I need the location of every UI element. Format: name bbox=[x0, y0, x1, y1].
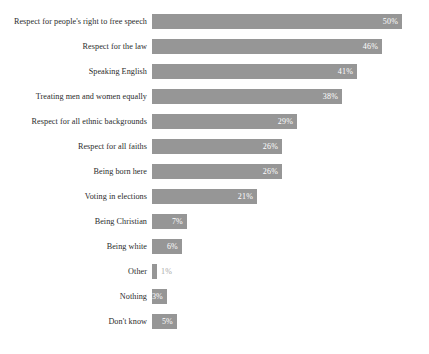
bar-category-label: Being white bbox=[0, 242, 152, 252]
bar-row: Respect for all ethnic backgrounds29% bbox=[0, 114, 429, 129]
horizontal-bar-chart: Respect for people's right to free speec… bbox=[0, 0, 429, 354]
bar-row: Being born here26% bbox=[0, 164, 429, 179]
bar-value-label: 5% bbox=[162, 314, 177, 329]
bar bbox=[152, 64, 357, 79]
bar-row: Being Christian7% bbox=[0, 214, 429, 229]
bar-row: Treating men and women equally38% bbox=[0, 89, 429, 104]
bar-category-label: Respect for people's right to free speec… bbox=[0, 17, 152, 27]
bar-row: Speaking English41% bbox=[0, 64, 429, 79]
bar-value-label: 21% bbox=[238, 189, 257, 204]
bar bbox=[152, 114, 297, 129]
bar-row: Nothing3% bbox=[0, 289, 429, 304]
bar-value-label: 1% bbox=[157, 264, 172, 279]
bar-category-label: Respect for the law bbox=[0, 42, 152, 52]
bar-row: Respect for people's right to free speec… bbox=[0, 14, 429, 29]
bar-track: 38% bbox=[152, 89, 429, 104]
bar-category-label: Speaking English bbox=[0, 67, 152, 77]
bar bbox=[152, 14, 402, 29]
bar-track: 26% bbox=[152, 139, 429, 154]
bar-track: 6% bbox=[152, 239, 429, 254]
bar-value-label: 29% bbox=[278, 114, 297, 129]
bar-track: 29% bbox=[152, 114, 429, 129]
bar-value-label: 50% bbox=[383, 14, 402, 29]
bar-category-label: Nothing bbox=[0, 292, 152, 302]
bar-row: Being white6% bbox=[0, 239, 429, 254]
bar-track: 7% bbox=[152, 214, 429, 229]
bar-category-label: Don't know bbox=[0, 317, 152, 327]
bar-value-label: 38% bbox=[323, 89, 342, 104]
bar-category-label: Respect for all faiths bbox=[0, 142, 152, 152]
bar bbox=[152, 89, 342, 104]
bar-track: 21% bbox=[152, 189, 429, 204]
bar-track: 26% bbox=[152, 164, 429, 179]
bar-value-label: 26% bbox=[263, 164, 282, 179]
bar-value-label: 3% bbox=[152, 289, 167, 304]
bar-track: 41% bbox=[152, 64, 429, 79]
bar-row: Don't know5% bbox=[0, 314, 429, 329]
bar-track: 1% bbox=[152, 264, 429, 279]
bar-category-label: Voting in elections bbox=[0, 192, 152, 202]
bar-value-label: 26% bbox=[263, 139, 282, 154]
bar-category-label: Other bbox=[0, 267, 152, 277]
bar-row: Respect for the law46% bbox=[0, 39, 429, 54]
bar bbox=[152, 39, 382, 54]
bar-category-label: Being born here bbox=[0, 167, 152, 177]
bar-category-label: Treating men and women equally bbox=[0, 92, 152, 102]
bar-category-label: Being Christian bbox=[0, 217, 152, 227]
bar-category-label: Respect for all ethnic backgrounds bbox=[0, 117, 152, 127]
bar-row: Voting in elections21% bbox=[0, 189, 429, 204]
bar-track: 3% bbox=[152, 289, 429, 304]
bar-row: Other1% bbox=[0, 264, 429, 279]
bar-value-label: 7% bbox=[172, 214, 187, 229]
bar-track: 50% bbox=[152, 14, 429, 29]
bar-value-label: 46% bbox=[363, 39, 382, 54]
bar-value-label: 41% bbox=[338, 64, 357, 79]
bar-track: 5% bbox=[152, 314, 429, 329]
bar-chart-rows: Respect for people's right to free speec… bbox=[0, 14, 429, 339]
bar-track: 46% bbox=[152, 39, 429, 54]
bar-value-label: 6% bbox=[167, 239, 182, 254]
bar-row: Respect for all faiths26% bbox=[0, 139, 429, 154]
